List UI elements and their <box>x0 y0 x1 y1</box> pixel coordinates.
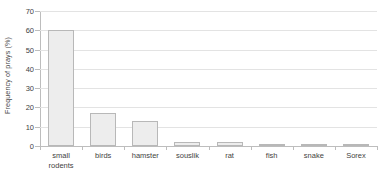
bar <box>174 142 200 146</box>
bars-layer <box>40 11 377 146</box>
bar-slot <box>40 11 82 146</box>
x-category-label: snake <box>293 151 335 161</box>
x-category-label-line: souslik <box>176 151 199 160</box>
x-category-label-line: birds <box>95 151 111 160</box>
bar-slot <box>82 11 124 146</box>
bar-slot <box>166 11 208 146</box>
x-category-label-line: small <box>52 151 70 160</box>
y-tick-mark <box>35 146 40 147</box>
x-tick-mark <box>40 146 41 150</box>
x-tick-mark <box>377 146 378 150</box>
bar <box>48 30 74 146</box>
y-tick-label: 40 <box>4 64 34 73</box>
x-category-label-line: Sorex <box>346 151 366 160</box>
bar <box>259 144 285 146</box>
y-tick-mark <box>35 69 40 70</box>
x-tick-mark <box>335 146 336 150</box>
x-category-label-line: fish <box>266 151 278 160</box>
y-tick-label: 30 <box>4 84 34 93</box>
bar-slot <box>209 11 251 146</box>
x-category-label-line: rodents <box>40 161 82 171</box>
y-tick-mark <box>35 107 40 108</box>
y-tick-label: 10 <box>4 122 34 131</box>
bar-slot <box>124 11 166 146</box>
y-tick-label: 60 <box>4 26 34 35</box>
x-category-label-line: rat <box>225 151 234 160</box>
bar <box>217 142 243 146</box>
bar <box>301 144 327 146</box>
bar <box>90 113 116 146</box>
y-tick-mark <box>35 50 40 51</box>
x-category-label-line: snake <box>304 151 324 160</box>
x-category-label: souslik <box>166 151 208 161</box>
y-tick-mark <box>35 11 40 12</box>
bar-slot <box>335 11 377 146</box>
y-tick-mark <box>35 127 40 128</box>
bar-slot <box>293 11 335 146</box>
y-axis-tick-labels: 010203040506070 <box>0 0 34 185</box>
x-tick-mark <box>124 146 125 150</box>
y-tick-label: 70 <box>4 7 34 16</box>
y-tick-mark <box>35 88 40 89</box>
x-tick-mark <box>293 146 294 150</box>
x-category-label: birds <box>82 151 124 161</box>
y-tick-label: 20 <box>4 103 34 112</box>
x-category-label: fish <box>251 151 293 161</box>
bar-slot <box>251 11 293 146</box>
x-category-label: smallrodents <box>40 151 82 170</box>
x-tick-mark <box>209 146 210 150</box>
x-category-label-line: hamster <box>132 151 159 160</box>
plot-area <box>40 11 377 146</box>
x-category-label: Sorex <box>335 151 377 161</box>
y-tick-label: 0 <box>4 142 34 151</box>
bar-chart: Frequency of prays (%) 010203040506070 s… <box>0 0 383 185</box>
y-tick-label: 50 <box>4 45 34 54</box>
x-category-label: hamster <box>124 151 166 161</box>
x-axis-category-labels: smallrodentsbirdshamstersouslikratfishsn… <box>40 151 377 181</box>
bar <box>343 144 369 146</box>
bar <box>132 121 158 146</box>
x-tick-mark <box>251 146 252 150</box>
y-tick-mark <box>35 30 40 31</box>
x-tick-mark <box>166 146 167 150</box>
x-tick-mark <box>82 146 83 150</box>
x-category-label: rat <box>209 151 251 161</box>
